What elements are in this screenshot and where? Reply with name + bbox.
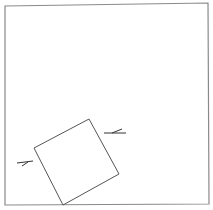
diagram-svg (0, 0, 213, 210)
background (0, 0, 213, 210)
diagram-canvas (0, 0, 213, 210)
